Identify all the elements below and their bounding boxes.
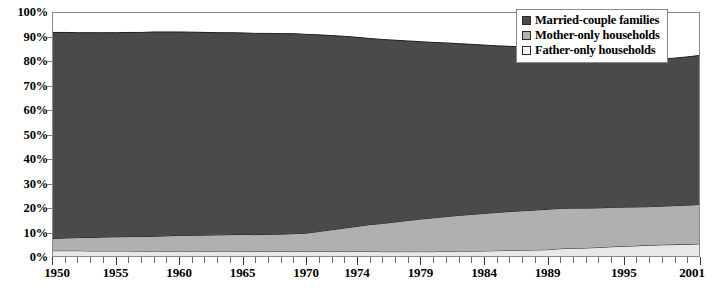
legend-swatch-icon <box>522 31 531 40</box>
x-tick-mark <box>154 257 155 263</box>
x-tick-mark <box>408 257 409 263</box>
x-tick-mark <box>395 257 396 263</box>
x-tick-mark <box>420 257 421 265</box>
legend-item[interactable]: Married-couple families <box>522 13 660 28</box>
x-tick-mark <box>649 257 650 263</box>
x-tick-label: 1960 <box>166 266 192 279</box>
y-axis: 0%10%20%30%40%50%60%70%80%90%100% <box>0 0 48 288</box>
x-tick-mark <box>675 257 676 263</box>
y-tick-label: 40% <box>2 153 48 166</box>
x-tick-mark <box>471 257 472 263</box>
x-tick-mark <box>382 257 383 263</box>
legend-item-label: Married-couple families <box>535 14 659 27</box>
x-tick-mark <box>52 257 53 265</box>
x-tick-mark <box>319 257 320 263</box>
x-tick-label: 1950 <box>44 266 70 279</box>
stacked-area-chart: 0%10%20%30%40%50%60%70%80%90%100% 195019… <box>0 0 715 288</box>
x-tick-mark <box>103 257 104 263</box>
legend-swatch-icon <box>522 46 531 55</box>
x-tick-mark <box>522 257 523 263</box>
y-tick-label: 70% <box>2 79 48 92</box>
x-tick-mark <box>662 257 663 263</box>
x-tick-mark <box>77 257 78 263</box>
x-tick-mark <box>624 257 625 265</box>
x-tick-mark <box>687 257 688 263</box>
x-tick-mark <box>65 257 66 263</box>
x-tick-mark <box>217 257 218 263</box>
x-tick-label: 2001 <box>679 266 705 279</box>
x-tick-mark <box>243 257 244 265</box>
x-tick-mark <box>484 257 485 265</box>
legend-item-label: Father-only households <box>535 44 656 57</box>
x-tick-mark <box>611 257 612 263</box>
x-tick-mark <box>433 257 434 263</box>
x-tick-mark <box>116 257 117 265</box>
x-tick-label: 1984 <box>471 266 497 279</box>
x-tick-mark <box>332 257 333 263</box>
legend-item[interactable]: Mother-only households <box>522 28 660 43</box>
x-tick-label: 1965 <box>230 266 256 279</box>
x-tick-mark <box>586 257 587 263</box>
x-tick-label: 1974 <box>344 266 370 279</box>
x-tick-mark <box>255 257 256 263</box>
x-tick-mark <box>204 257 205 263</box>
y-tick-label: 10% <box>2 226 48 239</box>
x-tick-mark <box>281 257 282 263</box>
x-tick-label: 1995 <box>611 266 637 279</box>
y-tick-label: 50% <box>2 128 48 141</box>
x-tick-mark <box>90 257 91 263</box>
x-tick-mark <box>166 257 167 263</box>
legend-item[interactable]: Father-only households <box>522 43 660 58</box>
legend-swatch-icon <box>522 16 531 25</box>
x-tick-label: 1955 <box>103 266 129 279</box>
x-tick-mark <box>446 257 447 263</box>
y-tick-label: 100% <box>2 6 48 19</box>
x-tick-mark <box>573 257 574 263</box>
y-tick-label: 30% <box>2 177 48 190</box>
chart-legend: Married-couple familiesMother-only house… <box>516 9 668 63</box>
x-tick-label: 1979 <box>408 266 434 279</box>
x-tick-mark <box>306 257 307 265</box>
x-tick-mark <box>509 257 510 263</box>
x-tick-mark <box>497 257 498 263</box>
x-tick-mark <box>344 257 345 263</box>
x-tick-mark <box>535 257 536 263</box>
x-tick-mark <box>268 257 269 263</box>
y-tick-label: 80% <box>2 55 48 68</box>
x-tick-mark <box>560 257 561 263</box>
x-tick-mark <box>230 257 231 263</box>
x-tick-mark <box>370 257 371 263</box>
y-tick-label: 20% <box>2 202 48 215</box>
x-tick-label: 1970 <box>293 266 319 279</box>
x-tick-mark <box>179 257 180 265</box>
x-tick-mark <box>700 257 701 265</box>
x-tick-mark <box>459 257 460 263</box>
x-tick-mark <box>128 257 129 263</box>
x-tick-mark <box>141 257 142 263</box>
x-tick-mark <box>293 257 294 263</box>
x-tick-label: 1989 <box>535 266 561 279</box>
x-tick-mark <box>357 257 358 265</box>
legend-item-label: Mother-only households <box>535 29 660 42</box>
y-tick-label: 0% <box>2 251 48 264</box>
x-tick-mark <box>636 257 637 263</box>
x-tick-mark <box>548 257 549 265</box>
y-tick-label: 60% <box>2 104 48 117</box>
x-tick-mark <box>598 257 599 263</box>
x-tick-mark <box>192 257 193 263</box>
y-tick-label: 90% <box>2 30 48 43</box>
